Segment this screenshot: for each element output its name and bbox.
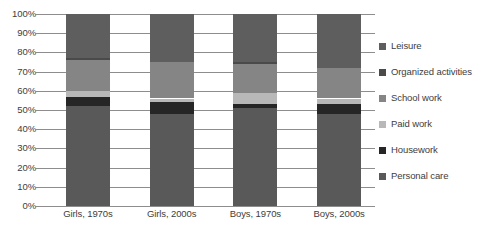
legend-swatch-icon <box>379 69 386 76</box>
bar-segment <box>66 106 110 206</box>
bar-segment <box>150 102 194 114</box>
legend-item-label: Leisure <box>391 40 421 52</box>
bar-segment <box>150 14 194 62</box>
bar-segment <box>150 99 194 103</box>
x-axis-category-label: Girls, 1970s <box>42 208 134 220</box>
y-axis-tick-label: 90% <box>0 28 36 38</box>
x-axis-category-label: Girls, 2000s <box>126 208 218 220</box>
bar-segment <box>233 64 277 93</box>
bar-segment <box>233 104 277 108</box>
bar-segment <box>233 14 277 62</box>
bar-segment <box>317 104 361 114</box>
legend-item-label: Paid work <box>391 118 432 130</box>
bar-segment <box>66 60 110 91</box>
y-axis-tick-label: 60% <box>0 86 36 96</box>
legend-item[interactable]: Housework <box>379 144 438 156</box>
bar-segment <box>233 108 277 206</box>
y-axis-tick-mark <box>35 206 40 207</box>
y-axis-tick-label: 80% <box>0 47 36 57</box>
legend-item[interactable]: Organized activities <box>379 66 472 78</box>
y-axis-tick-label: 10% <box>0 182 36 192</box>
legend-item[interactable]: Personal care <box>379 170 448 182</box>
legend-item[interactable]: Paid work <box>379 118 432 130</box>
x-axis-category-label: Boys, 1970s <box>209 208 301 220</box>
legend-swatch-icon <box>379 95 386 102</box>
y-axis-tick-label: 70% <box>0 67 36 77</box>
legend-swatch-icon <box>379 43 386 50</box>
legend-swatch-icon <box>379 173 386 180</box>
legend-swatch-icon <box>379 121 386 128</box>
bar-segment <box>66 97 110 107</box>
y-axis: 100%90%80%70%60%50%40%30%20%10%0% <box>0 14 36 206</box>
bar <box>150 14 194 206</box>
bar-segment <box>233 62 277 64</box>
x-axis-category-label: Boys, 2000s <box>293 208 385 220</box>
legend-item[interactable]: School work <box>379 92 442 104</box>
legend-item-label: Organized activities <box>391 66 472 78</box>
bar-segment <box>317 14 361 68</box>
bar-segment <box>317 114 361 206</box>
legend-item-label: Housework <box>391 144 438 156</box>
bar <box>66 14 110 206</box>
bar-segment <box>150 114 194 206</box>
y-axis-tick-label: 40% <box>0 124 36 134</box>
bar-segment <box>66 58 110 60</box>
bar <box>233 14 277 206</box>
bar-segment <box>317 99 361 105</box>
x-axis-labels: Girls, 1970sGirls, 2000sBoys, 1970sBoys,… <box>40 208 375 226</box>
y-axis-tick-label: 30% <box>0 143 36 153</box>
bars-layer <box>40 14 375 206</box>
stacked-bar-chart: 100%90%80%70%60%50%40%30%20%10%0% Girls,… <box>0 0 499 243</box>
bar-segment <box>233 93 277 105</box>
legend-item-label: Personal care <box>391 170 448 182</box>
legend-item[interactable]: Leisure <box>379 40 421 52</box>
plot-area <box>40 14 375 206</box>
bar <box>317 14 361 206</box>
y-axis-tick-label: 20% <box>0 163 36 173</box>
bar-segment <box>66 91 110 97</box>
y-axis-tick-label: 50% <box>0 105 36 115</box>
bar-segment <box>317 68 361 99</box>
bar-segment <box>150 62 194 98</box>
y-axis-tick-label: 100% <box>0 9 36 19</box>
y-axis-tick-label: 0% <box>0 201 36 211</box>
legend-swatch-icon <box>379 147 386 154</box>
axis-baseline <box>40 206 375 207</box>
legend-item-label: School work <box>391 92 442 104</box>
bar-segment <box>66 14 110 58</box>
